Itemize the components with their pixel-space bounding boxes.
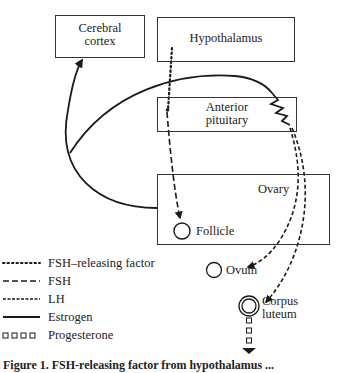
- hypothalamus-label: Hypothalamus: [157, 32, 295, 45]
- legend-label-estrogen: Estrogen: [48, 309, 92, 325]
- legend-swatch-squares: [3, 333, 35, 338]
- legend-label-fsh: FSH: [48, 273, 71, 289]
- follicle-label: Follicle: [196, 225, 234, 238]
- cerebral-cortex-label: Cerebral cortex: [55, 22, 145, 48]
- corpus-luteum-label: Corpus luteum: [262, 295, 298, 321]
- figure-caption: Figure 1. FSH-releasing factor from hypo…: [3, 358, 274, 373]
- progesterone-path: [247, 318, 252, 343]
- anterior-pituitary-label: Anterior pituitary: [157, 101, 297, 127]
- ovum-label: Ovum: [226, 264, 257, 277]
- legend-label-progesterone: Progesterone: [48, 327, 113, 343]
- ovary-label: Ovary: [258, 183, 289, 196]
- ovary-box: [157, 174, 330, 245]
- progesterone-arrow-icon: [242, 348, 256, 354]
- legend-label-lh: LH: [48, 291, 65, 307]
- legend-label-fsh-releasing-factor: FSH–releasing factor: [48, 255, 155, 271]
- ovum-icon: [207, 263, 222, 278]
- estrogen-path-to-cortex: [66, 60, 157, 208]
